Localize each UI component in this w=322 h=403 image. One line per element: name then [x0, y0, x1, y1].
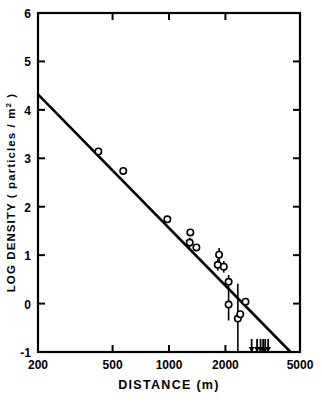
data-point — [164, 216, 170, 222]
y-tick-label-1: 1 — [24, 249, 31, 263]
data-point — [216, 251, 222, 257]
data-point — [242, 298, 248, 304]
y-tick-label-0: 0 — [24, 298, 31, 312]
x-axis-title: DISTANCE (m) — [118, 378, 219, 392]
y-tick-label-3: 3 — [24, 152, 31, 166]
x-tick-label-500: 500 — [103, 358, 123, 372]
x-tick-label-1000: 1000 — [156, 358, 183, 372]
x-tick-label-200: 200 — [28, 358, 48, 372]
y-tick-label-6: 6 — [24, 7, 31, 21]
data-point — [120, 168, 126, 174]
density-vs-distance-chart: -10123456200500100020005000DISTANCE (m)L… — [0, 0, 322, 403]
series-upper-limits — [249, 339, 271, 352]
data-point — [187, 229, 193, 235]
x-tick-label-5000: 5000 — [287, 358, 314, 372]
data-point — [221, 264, 227, 270]
y-tick-label-5: 5 — [24, 55, 31, 69]
chart-figure: -10123456200500100020005000DISTANCE (m)L… — [0, 0, 322, 403]
plot-frame — [38, 13, 300, 352]
data-point — [187, 239, 193, 245]
y-tick-label-2: 2 — [24, 201, 31, 215]
data-point — [193, 244, 199, 250]
data-point — [237, 311, 243, 317]
data-point — [225, 279, 231, 285]
data-point — [225, 301, 231, 307]
y-tick-label-4: 4 — [24, 104, 31, 118]
x-tick-label-2000: 2000 — [212, 358, 239, 372]
data-point — [95, 148, 101, 154]
y-axis-title: LOG DENSITY ( particles / m2 ) — [4, 93, 18, 293]
